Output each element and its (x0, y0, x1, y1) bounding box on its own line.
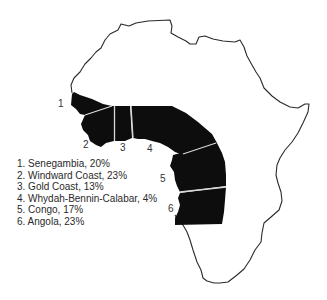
region-number-5: 5 (160, 173, 166, 184)
region-number-1: 1 (58, 98, 64, 109)
legend-item: 2. Windward Coast, 23% (17, 170, 157, 182)
region-angola[interactable] (175, 187, 226, 225)
legend: 1. Senegambia, 20% 2. Windward Coast, 23… (17, 158, 157, 228)
legend-item: 1. Senegambia, 20% (17, 158, 157, 170)
region-gold-coast[interactable] (115, 106, 132, 141)
region-number-4: 4 (147, 143, 153, 154)
region-number-6: 6 (168, 203, 174, 214)
legend-item: 3. Gold Coast, 13% (17, 181, 157, 193)
africa-map: 1 2 3 4 5 6 (0, 0, 327, 300)
legend-item: 4. Whydah-Bennin-Calabar, 4% (17, 193, 157, 205)
legend-item: 6. Angola, 23% (17, 216, 157, 228)
legend-item: 5. Congo, 17% (17, 204, 157, 216)
region-number-3: 3 (120, 142, 126, 153)
region-number-2: 2 (83, 139, 89, 150)
